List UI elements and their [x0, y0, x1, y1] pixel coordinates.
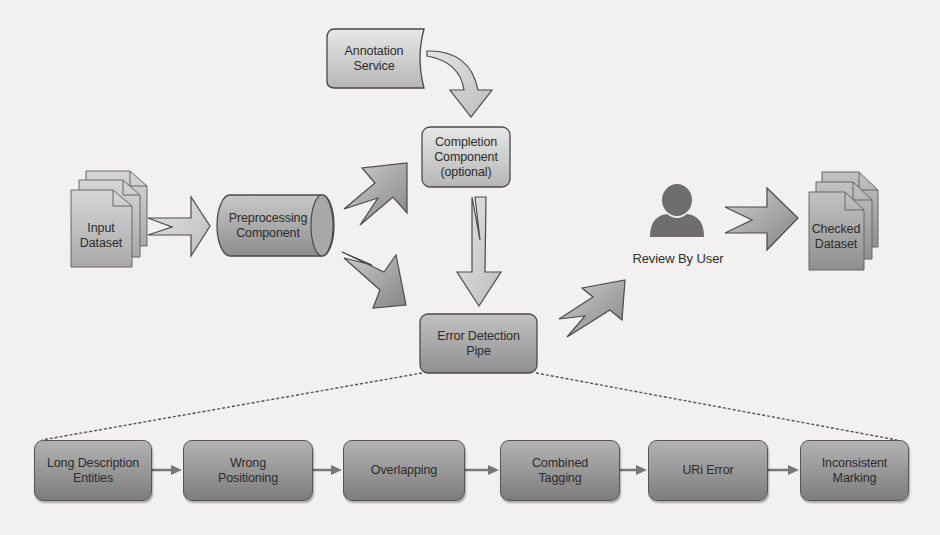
arrow-review-to-checked [725, 188, 798, 250]
user-icon [650, 184, 704, 237]
checked-dataset-shape [809, 172, 878, 270]
annotation-service-shape [327, 29, 424, 88]
arrow-input-to-preprocessing [148, 197, 210, 256]
arrow-completion-to-error-detection [457, 197, 501, 306]
pipeline-connectors [151, 465, 799, 475]
arrow-preprocessing-to-completion [344, 163, 407, 225]
dotted-expansion-lines [42, 373, 897, 440]
input-dataset-shape [71, 171, 147, 267]
arrow-error-detection-to-review [559, 280, 625, 337]
arrow-preprocessing-to-error-detection [342, 252, 406, 308]
diagram-canvas [0, 0, 940, 535]
curved-arrow-annotation-to-completion [427, 51, 492, 117]
error-detection-pipe-shape [420, 314, 537, 373]
preprocessing-component-shape [217, 195, 334, 256]
completion-component-shape [422, 127, 510, 187]
